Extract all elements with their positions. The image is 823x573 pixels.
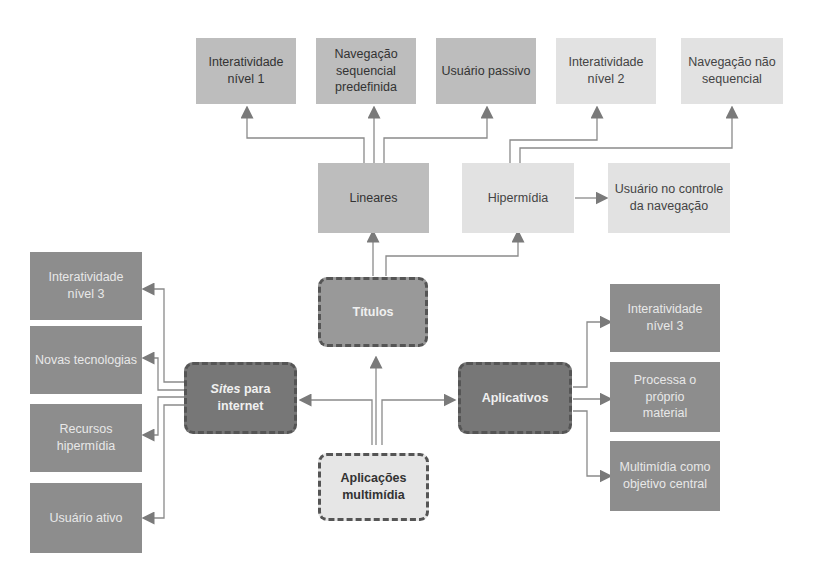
- node-navegacao-sequencial: Navegação sequencial predefinida: [316, 38, 416, 104]
- node-processa-proprio-material: Processa o próprio material: [610, 362, 720, 432]
- node-label: Multimídia como objetivo central: [620, 459, 711, 493]
- node-label: Interatividade nível 1: [208, 54, 283, 88]
- node-multimidia-objetivo-central: Multimídia como objetivo central: [610, 441, 720, 511]
- node-interatividade-nivel-2: Interatividade nível 2: [556, 38, 656, 104]
- node-label: Interatividade nível 2: [568, 54, 643, 88]
- node-label-italic: Sites: [211, 382, 241, 396]
- node-label: Interatividade nível 3: [48, 269, 123, 303]
- node-usuario-passivo: Usuário passivo: [436, 38, 536, 104]
- node-label: Navegação sequencial predefinida: [334, 46, 397, 97]
- node-label: Títulos: [353, 304, 394, 321]
- node-label: Usuário no controle da navegação: [615, 181, 723, 215]
- node-label: Processa o próprio material: [614, 372, 716, 423]
- node-label: Navegação não sequencial: [688, 54, 776, 88]
- node-sites-interatividade-nivel-3: Interatividade nível 3: [30, 252, 142, 320]
- node-label: Novas tecnologias: [35, 352, 137, 369]
- node-interatividade-nivel-1: Interatividade nível 1: [196, 38, 296, 104]
- node-usuario-ativo: Usuário ativo: [30, 483, 142, 553]
- node-titulos: Títulos: [318, 277, 428, 347]
- node-label: Aplicações multimídia: [340, 470, 406, 504]
- node-recursos-hipermidia: Recursos hipermídia: [30, 404, 142, 472]
- node-sites-para-internet: Sites para internet: [184, 362, 297, 434]
- node-label: Usuário passivo: [442, 63, 531, 80]
- node-aplicativos: Aplicativos: [458, 362, 572, 434]
- node-lineares: Lineares: [318, 163, 429, 233]
- node-novas-tecnologias: Novas tecnologias: [30, 326, 142, 394]
- node-label: Aplicativos: [482, 390, 549, 407]
- node-usuario-controle-navegacao: Usuário no controle da navegação: [608, 163, 730, 233]
- node-label: Hipermídia: [488, 190, 548, 207]
- node-label: Lineares: [350, 190, 398, 207]
- node-aplicacoes-multimidia: Aplicações multimídia: [318, 453, 429, 521]
- node-label: Recursos hipermídia: [57, 421, 115, 455]
- node-label: Sites para internet: [211, 381, 271, 415]
- node-navegacao-nao-sequencial: Navegação não sequencial: [681, 38, 783, 104]
- node-hipermidia: Hipermídia: [462, 163, 574, 233]
- node-label: Usuário ativo: [50, 510, 123, 527]
- node-aplicativos-interatividade-nivel-3: Interatividade nível 3: [610, 284, 720, 352]
- node-label: Interatividade nível 3: [627, 301, 702, 335]
